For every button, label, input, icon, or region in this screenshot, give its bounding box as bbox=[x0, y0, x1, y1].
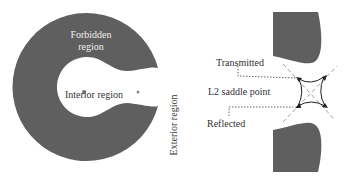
saddle-orbit bbox=[298, 77, 325, 106]
l2-point-marker bbox=[137, 91, 140, 94]
lower-forbidden-region bbox=[273, 123, 321, 172]
transmitted-label: Transmitted bbox=[216, 57, 264, 68]
right-panel: Transmitted L2 saddle point Reflected bbox=[207, 12, 337, 172]
interior-label: Interior region bbox=[65, 89, 123, 100]
diagram-canvas: Forbidden region Interior region Exterio… bbox=[0, 0, 353, 184]
left-panel: Forbidden region Interior region Exterio… bbox=[12, 13, 179, 161]
upper-forbidden-region bbox=[273, 12, 321, 63]
reflected-leader bbox=[229, 107, 293, 116]
forbidden-label-2: region bbox=[78, 41, 104, 52]
saddle-label: L2 saddle point bbox=[208, 86, 270, 97]
reflected-label: Reflected bbox=[207, 118, 245, 129]
forbidden-label-1: Forbidden bbox=[70, 29, 111, 40]
dashed-diagonal-1 bbox=[283, 64, 335, 120]
exterior-label: Exterior region bbox=[168, 95, 179, 156]
dashed-diagonal-2 bbox=[283, 66, 337, 122]
